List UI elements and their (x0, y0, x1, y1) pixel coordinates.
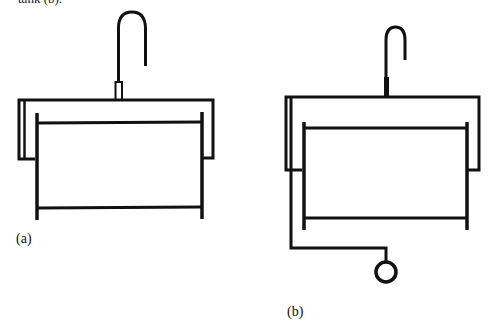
basin-bottom-a (38, 207, 201, 208)
basin-top-a (38, 122, 201, 123)
diagram-svg (0, 0, 496, 332)
figure-a (19, 12, 213, 220)
faucet-b-base (384, 77, 389, 97)
caption-b: (b) (287, 305, 303, 319)
clipped-text-fragment: tank (b). (18, 0, 62, 5)
drain-outlet-icon (376, 262, 396, 282)
caption-a: (a) (16, 232, 32, 246)
figure-b (286, 27, 479, 282)
faucet-a-base (116, 82, 123, 100)
outer-frame-a (19, 100, 213, 159)
faucet-a-icon (119, 12, 146, 84)
outer-frame-b (286, 97, 479, 170)
diagram-canvas: tank (b). (0, 0, 496, 332)
